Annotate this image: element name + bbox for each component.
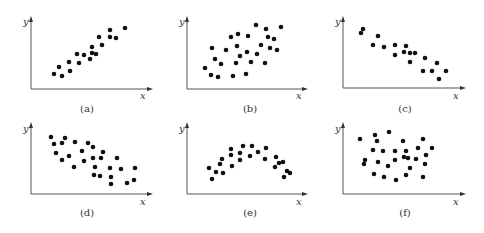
data-point bbox=[423, 162, 428, 167]
x-axis-label: x bbox=[140, 90, 146, 101]
data-point bbox=[224, 48, 229, 53]
data-point bbox=[248, 154, 253, 159]
data-point bbox=[424, 153, 429, 158]
y-axis-label: y bbox=[334, 123, 341, 134]
data-point bbox=[376, 160, 381, 165]
x-axis-label: x bbox=[140, 196, 146, 207]
data-points bbox=[359, 27, 449, 82]
y-axis-label: y bbox=[178, 123, 185, 134]
plot-caption: (a) bbox=[80, 103, 94, 114]
data-point bbox=[444, 69, 449, 74]
data-point bbox=[244, 72, 249, 77]
data-point bbox=[132, 178, 137, 183]
y-axis-arrow-icon bbox=[341, 122, 345, 128]
data-point bbox=[386, 164, 391, 169]
data-point bbox=[209, 73, 214, 78]
data-point bbox=[133, 166, 138, 171]
data-point bbox=[90, 51, 95, 56]
scatter-plot-d: yx(d) bbox=[22, 122, 153, 218]
data-point bbox=[421, 137, 426, 142]
data-point bbox=[277, 161, 282, 166]
x-axis-arrow-icon bbox=[302, 87, 308, 91]
data-point bbox=[393, 149, 398, 154]
data-point bbox=[408, 166, 413, 171]
data-point bbox=[86, 141, 91, 146]
data-point bbox=[52, 142, 57, 147]
data-point bbox=[266, 35, 271, 40]
x-axis-arrow-icon bbox=[147, 87, 153, 91]
data-point bbox=[108, 28, 113, 33]
data-point bbox=[210, 177, 215, 182]
data-point bbox=[230, 164, 235, 169]
x-axis-label: x bbox=[296, 196, 302, 207]
data-point bbox=[67, 154, 72, 159]
y-axis-arrow-icon bbox=[29, 16, 33, 22]
data-point bbox=[263, 61, 268, 66]
data-point bbox=[97, 35, 102, 40]
x-axis-label: x bbox=[453, 196, 459, 207]
data-point bbox=[77, 61, 82, 66]
data-point bbox=[213, 57, 218, 62]
data-point bbox=[387, 130, 392, 135]
data-point bbox=[108, 35, 113, 40]
data-point bbox=[246, 34, 251, 39]
data-point bbox=[281, 160, 286, 165]
data-point bbox=[73, 140, 78, 145]
data-point bbox=[236, 32, 241, 37]
data-point bbox=[207, 166, 212, 171]
y-axis-arrow-icon bbox=[185, 122, 189, 128]
data-point bbox=[229, 153, 234, 158]
plot-caption: (c) bbox=[398, 103, 412, 114]
data-point bbox=[80, 149, 85, 154]
data-point bbox=[234, 61, 239, 66]
data-point bbox=[264, 146, 269, 151]
data-point bbox=[210, 46, 215, 51]
data-point bbox=[88, 57, 93, 62]
data-point bbox=[94, 52, 99, 57]
data-point bbox=[437, 77, 442, 82]
x-axis-label: x bbox=[453, 90, 459, 101]
data-point bbox=[214, 170, 219, 175]
data-point bbox=[68, 69, 73, 74]
data-point bbox=[98, 174, 103, 179]
data-point bbox=[238, 54, 243, 59]
data-point bbox=[91, 145, 96, 150]
plot-caption: (f) bbox=[399, 207, 411, 218]
data-point bbox=[279, 25, 284, 30]
data-point bbox=[245, 50, 250, 55]
data-point bbox=[114, 36, 119, 41]
data-point bbox=[375, 139, 380, 144]
data-point bbox=[60, 141, 65, 146]
data-point bbox=[421, 69, 426, 74]
data-point bbox=[235, 44, 240, 49]
data-point bbox=[382, 175, 387, 180]
data-point bbox=[91, 156, 96, 161]
data-points bbox=[358, 130, 435, 183]
data-point bbox=[274, 155, 279, 160]
data-point bbox=[49, 135, 54, 140]
data-point bbox=[421, 175, 426, 180]
y-axis-label: y bbox=[22, 16, 29, 27]
data-point bbox=[220, 157, 225, 162]
scatter-plot-f: yx(f) bbox=[334, 122, 466, 218]
data-point bbox=[57, 65, 62, 70]
data-point bbox=[250, 144, 255, 149]
data-point bbox=[359, 31, 364, 36]
x-axis-label: x bbox=[296, 90, 302, 101]
data-point bbox=[241, 144, 246, 149]
data-point bbox=[109, 182, 114, 187]
data-point bbox=[393, 158, 398, 163]
data-point bbox=[75, 52, 80, 57]
data-point bbox=[382, 45, 387, 50]
data-point bbox=[273, 165, 278, 170]
plot-caption: (d) bbox=[80, 207, 94, 218]
data-point bbox=[371, 43, 376, 48]
data-point bbox=[371, 148, 376, 153]
data-point bbox=[259, 43, 264, 48]
data-point bbox=[393, 53, 398, 58]
data-points bbox=[49, 135, 138, 187]
y-axis-label: y bbox=[178, 16, 185, 27]
data-point bbox=[372, 172, 377, 177]
data-point bbox=[363, 158, 368, 163]
scatter-plot-a: yx(a) bbox=[22, 16, 153, 114]
